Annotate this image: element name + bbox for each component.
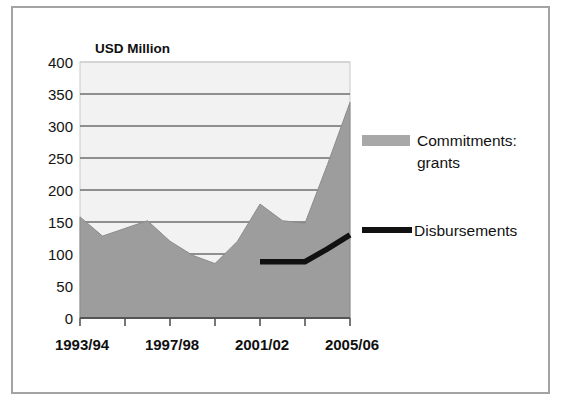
y-tick-label-400: 400 (48, 54, 73, 71)
y-tick-label-50: 50 (56, 278, 73, 295)
x-tick-label-1997-98: 1997/98 (145, 336, 199, 353)
chart-legend: Commitments: grants Disbursements (362, 132, 518, 239)
x-tick-label-2005-06: 2005/06 (325, 336, 379, 353)
x-tick-label-2001-02: 2001/02 (235, 336, 289, 353)
y-tick-label-0: 0 (65, 310, 73, 327)
x-tick-label-1993-94: 1993/94 (55, 336, 110, 353)
y-tick-label-150: 150 (48, 214, 73, 231)
y-tick-label-100: 100 (48, 246, 73, 263)
y-tick-label-250: 250 (48, 150, 73, 167)
x-axis-ticks (80, 318, 350, 326)
y-axis-title: USD Million (95, 41, 170, 56)
legend-label-commitments-line1: Commitments: (417, 132, 517, 149)
figure-container: 050100150200250300350400 1993/941997/982… (0, 0, 563, 407)
chart-border-frame: 050100150200250300350400 1993/941997/982… (11, 6, 550, 394)
y-tick-label-300: 300 (48, 118, 73, 135)
legend-swatch-commitments (362, 135, 410, 146)
x-axis-tick-labels: 1993/941997/982001/022005/06 (55, 336, 379, 353)
y-tick-label-350: 350 (48, 86, 73, 103)
y-tick-label-200: 200 (48, 182, 73, 199)
y-axis-tick-labels: 050100150200250300350400 (48, 54, 73, 327)
legend-label-commitments-line2: grants (417, 154, 460, 171)
legend-label-disbursements: Disbursements (414, 222, 518, 239)
area-chart: 050100150200250300350400 1993/941997/982… (13, 8, 548, 392)
